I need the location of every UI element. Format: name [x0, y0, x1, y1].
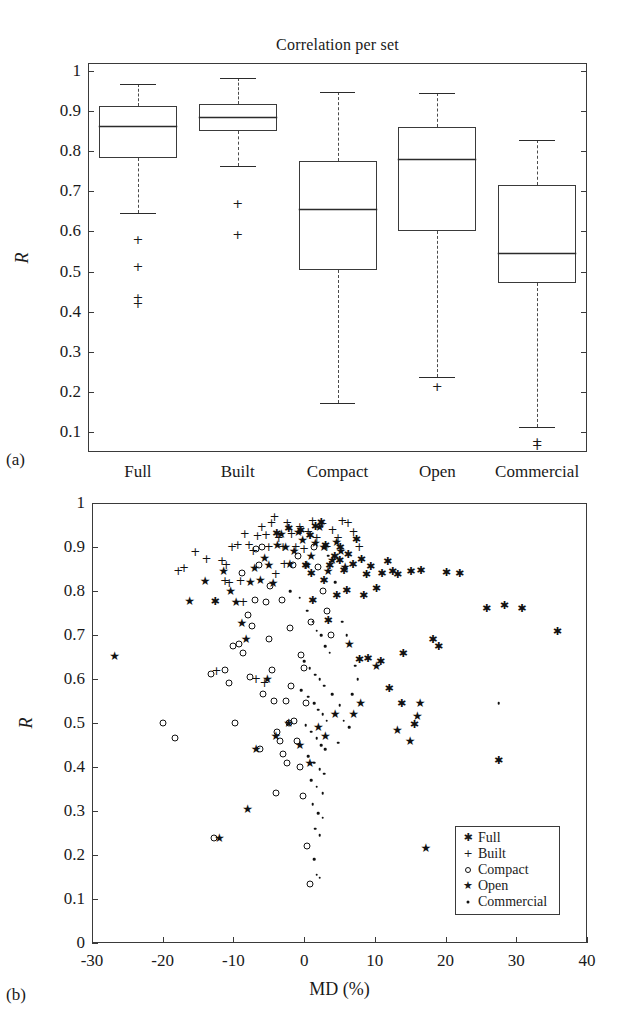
panel-b-ytick-label: 0.7: [64, 625, 85, 645]
scatter-point-commercial: [341, 621, 344, 624]
scatter-point-commercial: [318, 877, 321, 880]
panel-b-ytick: [92, 943, 98, 944]
scatter-point-commercial: [327, 555, 330, 558]
scatter-point-commercial: [324, 748, 327, 751]
scatter-point-compact: [315, 563, 322, 570]
panel-b-xtick: [233, 937, 234, 943]
figure-root: Correlation per set(a)10.90.80.70.60.50.…: [0, 0, 623, 1035]
scatter-point-commercial: [304, 724, 307, 727]
scatter-point-commercial: [316, 629, 319, 632]
panel-b-x-axis-label: MD (%): [309, 979, 370, 1000]
scatter-point-commercial: [311, 803, 314, 806]
panel-b-xtick: [446, 937, 447, 943]
scatter-point-commercial: [313, 858, 316, 861]
scatter-point-commercial: [321, 792, 324, 795]
scatter-point-commercial: [331, 693, 334, 696]
panel-b-xtick-label: 10: [366, 951, 383, 971]
scatter-point-compact: [265, 636, 272, 643]
scatter-point-commercial: [357, 678, 360, 681]
scatter-point-commercial: [310, 779, 313, 782]
scatter-point-commercial: [323, 684, 326, 687]
scatter-point-commercial: [289, 590, 292, 593]
panel-b-xtick: [375, 937, 376, 943]
scatter-point-compact: [172, 735, 179, 742]
legend-row: Commercial: [461, 894, 552, 910]
scatter-point-compact: [272, 790, 279, 797]
scatter-point-commercial: [325, 720, 328, 723]
scatter-point-compact: [267, 582, 274, 589]
scatter-point-commercial: [307, 755, 310, 758]
scatter-point-commercial: [342, 720, 345, 723]
scatter-point-compact: [328, 632, 335, 639]
panel-b-ytick: [92, 899, 98, 900]
legend-symbol-star-icon: ★: [461, 879, 475, 893]
legend-label: Commercial: [475, 894, 547, 910]
scatter-point-compact: [311, 544, 318, 551]
legend-label: Compact: [475, 862, 529, 878]
scatter-point-commercial: [345, 634, 348, 637]
panel-b-ytick-label: 0.9: [64, 537, 85, 557]
scatter-point-compact: [262, 599, 269, 606]
scatter-point-compact: [295, 552, 302, 559]
scatter-point-commercial: [354, 665, 357, 668]
panel-b-ytick-label: 0.8: [64, 581, 85, 601]
scatter-point-commercial: [320, 634, 323, 637]
scatter-point-compact: [251, 596, 258, 603]
scatter-point-commercial: [316, 737, 319, 740]
panel-b-xtick-label: 40: [579, 951, 596, 971]
scatter-point-compact: [298, 651, 305, 658]
panel-b-ytick: [92, 591, 98, 592]
scatter-point-compact: [284, 759, 291, 766]
legend-symbol-plus-icon: +: [461, 847, 475, 861]
legend-label: Full: [475, 830, 501, 846]
panel-b-ytick-label: 0.6: [64, 669, 85, 689]
scatter-point-compact: [268, 667, 275, 674]
scatter-point-commercial: [348, 726, 351, 729]
panel-b-ytick: [92, 679, 98, 680]
scatter-point-compact: [319, 588, 326, 595]
legend-label: Open: [475, 878, 508, 894]
scatter-point-compact: [248, 623, 255, 630]
scatter-point-commercial: [497, 702, 500, 705]
legend-symbol-asterisk-icon: ✱: [461, 831, 475, 845]
panel-b-xtick: [304, 937, 305, 943]
panel-b-ytick-label: 1: [77, 493, 86, 513]
panel-b-ytick: [92, 811, 98, 812]
panel-b-ytick: [92, 855, 98, 856]
scatter-point-commercial: [321, 713, 324, 716]
scatter-point-compact: [247, 673, 254, 680]
panel-b-xtick: [163, 937, 164, 943]
scatter-point-compact: [303, 843, 310, 850]
scatter-point-compact: [289, 561, 296, 568]
scatter-point-compact: [210, 835, 217, 842]
panel-b-xtick: [92, 937, 93, 943]
scatter-point-compact: [302, 700, 309, 707]
scatter-point-compact: [236, 640, 243, 647]
panel-b-ytick-label: 0: [77, 933, 86, 953]
scatter-point-compact: [274, 728, 281, 735]
scatter-point-commercial: [316, 786, 319, 789]
panel-b: (b)10.90.80.70.60.50.40.30.20.10-30-20-1…: [0, 0, 623, 1035]
panel-b-ytick: [92, 635, 98, 636]
legend-symbol-circle-icon: [461, 863, 475, 877]
panel-b-xtick-label: 0: [300, 951, 309, 971]
scatter-point-compact: [244, 612, 251, 619]
scatter-point-compact: [257, 746, 264, 753]
panel-b-legend: ✱Full+BuiltCompact★OpenCommercial: [455, 826, 560, 915]
legend-row: ✱Full: [461, 830, 552, 846]
scatter-point-compact: [240, 649, 247, 656]
scatter-point-compact: [301, 665, 308, 672]
scatter-point-commercial: [334, 581, 337, 584]
legend-row: ★Open: [461, 878, 552, 894]
scatter-point-commercial: [318, 768, 321, 771]
scatter-point-compact: [277, 737, 284, 744]
scatter-point-commercial: [338, 704, 341, 707]
scatter-point-compact: [306, 880, 313, 887]
circle-icon: [465, 867, 471, 873]
scatter-point-compact: [238, 570, 245, 577]
panel-b-ytick: [92, 767, 98, 768]
scatter-point-commercial: [313, 702, 316, 705]
scatter-point-compact: [231, 720, 238, 727]
scatter-point-commercial: [313, 761, 316, 764]
panel-b-ytick-label: 0.1: [64, 889, 85, 909]
